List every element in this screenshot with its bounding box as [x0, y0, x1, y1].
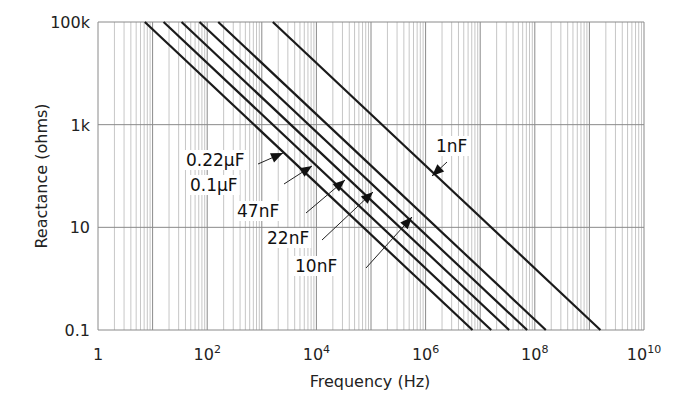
y-tick-label: 100k — [50, 13, 91, 32]
annotation: 47nF — [235, 180, 345, 221]
annotation-label: 22nF — [267, 228, 309, 248]
x-axis-title: Frequency (Hz) — [310, 372, 431, 391]
annotation-label: 47nF — [237, 201, 279, 221]
x-tick-label: 1 — [93, 345, 103, 364]
annotation-label: 1nF — [436, 136, 467, 156]
x-tick-labels: 11021041061081010 — [93, 343, 661, 364]
y-axis-title: Reactance (ohms) — [32, 103, 51, 248]
y-tick-label: 0.1 — [65, 321, 90, 340]
annotation-label: 10nF — [295, 256, 337, 276]
annotation-label: 0.1µF — [190, 175, 238, 195]
y-tick-label: 10 — [70, 218, 90, 237]
y-tick-label: 1k — [71, 116, 91, 135]
annotation-label: 0.22µF — [186, 150, 244, 170]
y-tick-labels: 100k1k100.1 — [50, 13, 91, 340]
x-tick-label: 1010 — [627, 343, 661, 364]
x-tick-label: 104 — [303, 343, 330, 364]
grid — [98, 22, 644, 330]
x-tick-label: 102 — [194, 343, 221, 364]
reactance-chart: 0.22µF0.1µF47nF22nF10nF1nF 100k1k100.1 1… — [0, 0, 684, 413]
x-tick-label: 106 — [412, 343, 439, 364]
annotation: 0.22µF — [184, 150, 283, 170]
x-tick-label: 108 — [521, 343, 548, 364]
